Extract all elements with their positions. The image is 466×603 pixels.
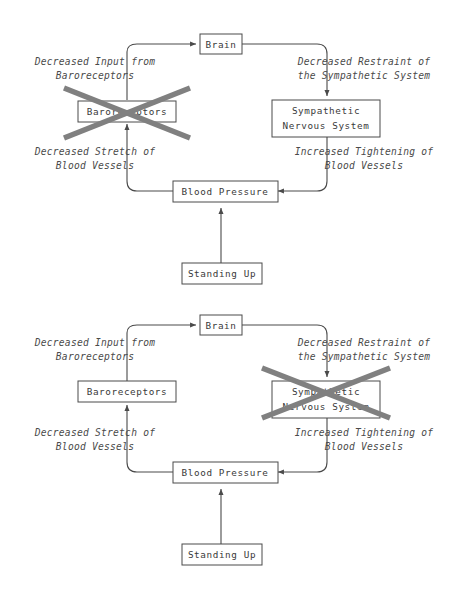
standing-up-label-2: Standing Up [188,549,256,560]
diagram-canvas: Brain Baroreceptors Sympathetic Nervous … [0,0,466,603]
blood-pressure-label-2: Blood Pressure [182,467,269,478]
label-decreased-stretch-line2: Blood Vessels [56,160,134,171]
label-decreased-restraint-2-line2: the Sympathetic System [298,351,431,362]
label-increased-tightening-2-line1: Increased Tightening of [295,427,434,438]
panel-bottom: Brain Baroreceptors Sympathetic Nervous … [34,315,434,565]
node-sympathetic-nervous-system-2[interactable]: Sympathetic Nervous System [272,381,380,418]
edge-baroreceptors-to-brain-2 [127,325,196,381]
brain-label: Brain [206,39,237,50]
label-decreased-stretch-2-line2: Blood Vessels [56,441,134,452]
label-increased-tightening-line2: Blood Vessels [325,160,403,171]
node-brain-2[interactable]: Brain [200,315,242,335]
label-decreased-restraint-2-line1: Decreased Restraint of [297,337,431,348]
sympathetic-label-line1: Sympathetic [292,105,360,116]
label-decreased-restraint-line1: Decreased Restraint of [297,56,431,67]
sympathetic-label-line2: Nervous System [283,120,370,131]
label-decreased-input-line2: Baroreceptors [56,70,134,81]
node-baroreceptors-2[interactable]: Baroreceptors [78,381,176,402]
node-brain[interactable]: Brain [200,34,242,54]
baroreceptors-label-2: Baroreceptors [87,386,168,397]
label-decreased-input-line1: Decreased Input from [34,56,156,67]
blood-pressure-label: Blood Pressure [182,186,269,197]
node-blood-pressure-2[interactable]: Blood Pressure [173,462,278,483]
brain-label-2: Brain [206,320,237,331]
label-decreased-input-2-line1: Decreased Input from [34,337,156,348]
node-standing-up-2[interactable]: Standing Up [182,544,262,565]
standing-up-label: Standing Up [188,268,256,279]
node-blood-pressure[interactable]: Blood Pressure [173,181,278,202]
label-decreased-input-2-line2: Baroreceptors [56,351,134,362]
baroreflex-diagram: Brain Baroreceptors Sympathetic Nervous … [0,0,466,603]
node-sympathetic-nervous-system[interactable]: Sympathetic Nervous System [272,100,380,137]
label-increased-tightening-line1: Increased Tightening of [295,146,434,157]
label-decreased-stretch-line1: Decreased Stretch of [34,146,156,157]
panel-top: Brain Baroreceptors Sympathetic Nervous … [34,34,434,284]
label-decreased-restraint-line2: the Sympathetic System [298,70,431,81]
node-standing-up[interactable]: Standing Up [182,263,262,284]
label-increased-tightening-2-line2: Blood Vessels [325,441,403,452]
label-decreased-stretch-2-line1: Decreased Stretch of [34,427,156,438]
